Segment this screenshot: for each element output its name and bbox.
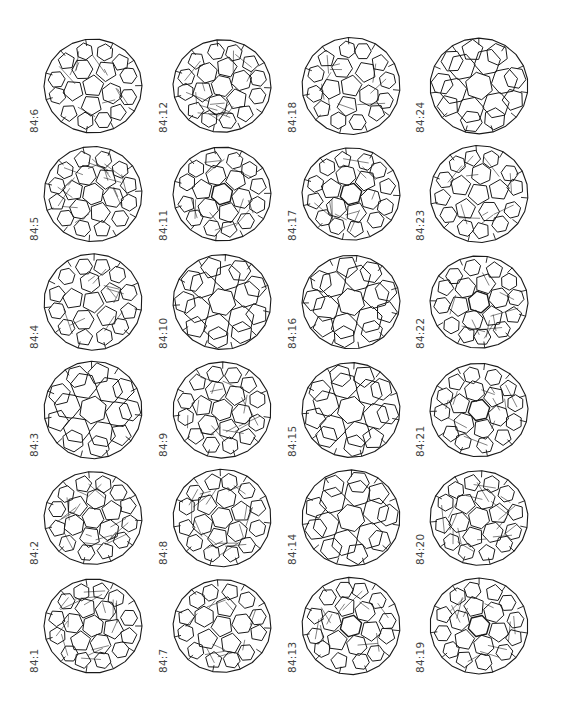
- isomer-label: 84:20: [414, 505, 426, 565]
- isomer-cell: 84:15: [280, 357, 408, 465]
- isomer-label: 84:8: [157, 505, 169, 565]
- isomer-cell: 84:1: [22, 573, 150, 681]
- isomer-cell: 84:11: [151, 141, 279, 249]
- isomer-cell: 84:16: [280, 249, 408, 357]
- fullerene-cage-drawing: [428, 143, 530, 245]
- isomer-label: 84:23: [414, 181, 426, 241]
- fullerene-cage-drawing: [300, 35, 402, 137]
- isomer-cell: 84:23: [408, 141, 536, 249]
- fullerene-cage-drawing: [42, 143, 144, 245]
- fullerene-cage-drawing: [428, 251, 530, 353]
- isomer-cell: 84:9: [151, 357, 279, 465]
- isomer-label: 84:18: [286, 73, 298, 133]
- isomer-cell: 84:5: [22, 141, 150, 249]
- isomer-label: 84:13: [286, 613, 298, 673]
- isomer-cell: 84:12: [151, 33, 279, 141]
- fullerene-cage-drawing: [171, 359, 273, 461]
- isomer-cell: 84:2: [22, 465, 150, 573]
- isomer-label: 84:15: [286, 397, 298, 457]
- isomer-cell: 84:4: [22, 249, 150, 357]
- isomer-label: 84:3: [28, 397, 40, 457]
- fullerene-cage-drawing: [42, 359, 144, 461]
- fullerene-cage-drawing: [42, 251, 144, 353]
- isomer-cell: 84:3: [22, 357, 150, 465]
- isomer-label: 84:10: [157, 289, 169, 349]
- isomer-cell: 84:24: [408, 33, 536, 141]
- isomer-cell: 84:22: [408, 249, 536, 357]
- isomer-cell: 84:7: [151, 573, 279, 681]
- fullerene-cage-drawing: [171, 251, 273, 353]
- isomer-label: 84:1: [28, 613, 40, 673]
- isomer-label: 84:14: [286, 505, 298, 565]
- fullerene-cage-drawing: [428, 35, 530, 137]
- isomer-cell: 84:8: [151, 465, 279, 573]
- isomer-label: 84:19: [414, 613, 426, 673]
- isomer-cell: 84:19: [408, 573, 536, 681]
- isomer-label: 84:11: [157, 181, 169, 241]
- isomer-cell: 84:6: [22, 33, 150, 141]
- isomer-cell: 84:17: [280, 141, 408, 249]
- fullerene-cage-drawing: [42, 35, 144, 137]
- fullerene-cage-drawing: [171, 35, 273, 137]
- isomer-label: 84:4: [28, 289, 40, 349]
- isomer-label: 84:7: [157, 613, 169, 673]
- fullerene-cage-drawing: [300, 251, 402, 353]
- fullerene-cage-drawing: [300, 467, 402, 569]
- fullerene-isomer-grid: 84:684:584:484:384:284:184:1284:1184:108…: [0, 0, 562, 708]
- isomer-label: 84:22: [414, 289, 426, 349]
- fullerene-cage-drawing: [171, 575, 273, 677]
- isomer-label: 84:12: [157, 73, 169, 133]
- isomer-cell: 84:18: [280, 33, 408, 141]
- fullerene-cage-drawing: [428, 359, 530, 461]
- fullerene-cage-drawing: [300, 143, 402, 245]
- isomer-label: 84:6: [28, 73, 40, 133]
- isomer-cell: 84:21: [408, 357, 536, 465]
- fullerene-cage-drawing: [171, 467, 273, 569]
- fullerene-cage-drawing: [428, 575, 530, 677]
- fullerene-cage-drawing: [300, 359, 402, 461]
- isomer-cell: 84:20: [408, 465, 536, 573]
- fullerene-cage-drawing: [171, 143, 273, 245]
- isomer-cell: 84:10: [151, 249, 279, 357]
- fullerene-cage-drawing: [42, 575, 144, 677]
- isomer-label: 84:24: [414, 73, 426, 133]
- isomer-label: 84:16: [286, 289, 298, 349]
- isomer-cell: 84:14: [280, 465, 408, 573]
- fullerene-cage-drawing: [300, 575, 402, 677]
- isomer-label: 84:2: [28, 505, 40, 565]
- fullerene-cage-drawing: [428, 467, 530, 569]
- isomer-cell: 84:13: [280, 573, 408, 681]
- isomer-label: 84:5: [28, 181, 40, 241]
- isomer-label: 84:21: [414, 397, 426, 457]
- fullerene-cage-drawing: [42, 467, 144, 569]
- isomer-label: 84:9: [157, 397, 169, 457]
- isomer-label: 84:17: [286, 181, 298, 241]
